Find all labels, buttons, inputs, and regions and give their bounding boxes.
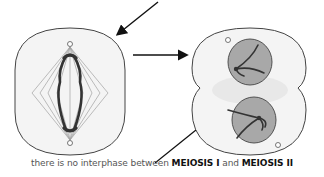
cell-meiosis-2-dividing <box>192 28 306 155</box>
caption-term-meiosis-2: MEIOSIS II <box>242 158 293 168</box>
centriole-top <box>226 38 231 43</box>
meiosis-diagram <box>0 0 324 177</box>
caption-prefix: there is no interphase between <box>31 158 171 168</box>
cell-meiosis-1-spindle <box>15 28 125 155</box>
nucleus-upper <box>228 39 272 85</box>
caption-middle: and <box>220 158 242 168</box>
centriole-bottom <box>276 143 281 148</box>
arrow-top-into-left-cell <box>118 2 158 34</box>
caption-term-meiosis-1: MEIOSIS I <box>172 158 220 168</box>
caption: there is no interphase between MEIOSIS I… <box>0 158 324 168</box>
